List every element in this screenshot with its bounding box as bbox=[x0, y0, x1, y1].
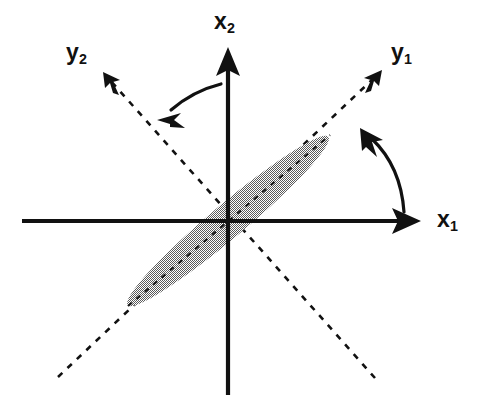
x2-axis-label-subscript: 2 bbox=[227, 20, 235, 36]
rotation-arrow-right-head bbox=[360, 128, 383, 157]
x2-axis-label-text: x bbox=[214, 8, 227, 34]
x1-axis-label-subscript: 1 bbox=[450, 218, 458, 234]
y1-axis-label-subscript: 1 bbox=[404, 51, 412, 67]
rotation-arrow-x1-to-y1 bbox=[360, 128, 404, 212]
y1-axis-label-text: y bbox=[391, 39, 404, 65]
y2-axis-label-text: y bbox=[66, 39, 79, 65]
x2-axis-label: x2 bbox=[214, 10, 235, 33]
y2-arrowhead bbox=[103, 72, 120, 95]
rotation-arrow-left-head bbox=[157, 113, 185, 128]
y2-axis-label: y2 bbox=[66, 41, 87, 64]
figure-container: x2 y2 y1 x1 bbox=[0, 0, 479, 407]
y2-axis-label-subscript: 2 bbox=[79, 51, 87, 67]
rotation-arrow-x2-to-y2 bbox=[157, 84, 221, 128]
y1-arrowhead bbox=[364, 70, 382, 93]
x1-axis-label: x1 bbox=[437, 208, 458, 231]
y1-axis-label: y1 bbox=[391, 41, 412, 64]
x1-axis-label-text: x bbox=[437, 206, 450, 232]
